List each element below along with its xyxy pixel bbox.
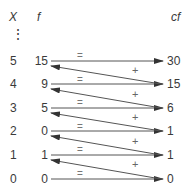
arrow-diagonal — [51, 66, 161, 84]
arrows-layer — [0, 0, 192, 193]
arrow-diagonal — [51, 113, 161, 131]
arrow-diagonal — [51, 160, 161, 179]
arrow-diagonal — [51, 136, 161, 155]
arrow-diagonal — [51, 89, 161, 108]
